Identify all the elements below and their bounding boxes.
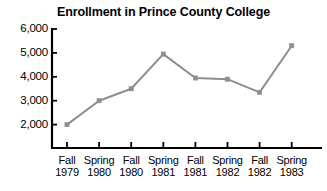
data-point-markers (65, 44, 294, 127)
x-label-year-7: 1983 (266, 166, 318, 178)
data-point-5 (225, 77, 229, 81)
axes (51, 28, 322, 148)
data-point-4 (193, 76, 197, 80)
x-axis-tick-label-7: Spring1983 (266, 154, 318, 178)
data-point-7 (290, 44, 294, 48)
enrollment-line-series (67, 46, 292, 125)
data-point-3 (161, 52, 165, 56)
data-point-6 (258, 90, 262, 94)
data-point-2 (129, 87, 133, 91)
enrollment-line (67, 46, 292, 125)
x-label-season-7: Spring (266, 154, 318, 166)
chart-container: Enrollment in Prince County College 2,00… (0, 0, 327, 191)
data-point-1 (97, 99, 101, 103)
data-point-0 (65, 123, 69, 127)
